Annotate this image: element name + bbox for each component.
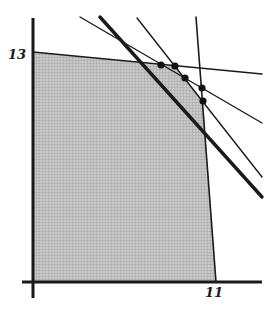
- feasible-region: [33, 52, 216, 282]
- vertex-point: [181, 74, 188, 81]
- vertex-point: [171, 62, 178, 69]
- vertex-point: [199, 97, 206, 104]
- vertex-point: [157, 61, 164, 68]
- x-tick-label: 11: [205, 286, 223, 299]
- y-tick-label: 13: [8, 48, 26, 61]
- vertex-point: [198, 84, 205, 91]
- diagram-canvas: [0, 0, 275, 314]
